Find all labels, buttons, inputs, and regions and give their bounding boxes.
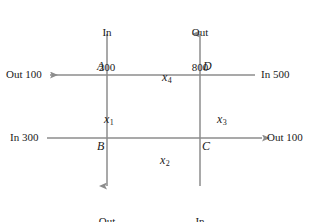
- flow-value-top-right: 800: [182, 62, 218, 74]
- flow-lines-svg: [0, 0, 312, 222]
- flow-label-top-left: In 200: [89, 3, 125, 98]
- variable-symbol-x3: x: [217, 112, 222, 126]
- variable-symbol-x4: x: [162, 70, 167, 84]
- flow-value-top-left: 200: [89, 62, 125, 74]
- variable-subscript-x1: 1: [110, 118, 114, 127]
- network-flow-diagram: In 200 Out 800 Out 100 In 500 In 300 Out…: [0, 0, 312, 222]
- flow-label-bottom-right: In 200: [182, 192, 218, 222]
- flow-label-right-lower: Out 100: [267, 132, 303, 144]
- flow-label-right-upper: In 500: [261, 69, 289, 81]
- node-label-a: A: [97, 60, 104, 73]
- variable-symbol-x2: x: [160, 153, 165, 167]
- flow-label-top-right: Out 800: [182, 3, 218, 98]
- variable-symbol-x1: x: [104, 112, 109, 126]
- flow-label-left-upper: Out 100: [6, 69, 42, 81]
- flow-direction-top-right: Out: [182, 27, 218, 39]
- node-label-b: B: [97, 140, 104, 153]
- flow-direction-top-left: In: [89, 27, 125, 39]
- node-label-d: D: [203, 60, 212, 73]
- variable-subscript-x4: 4: [168, 76, 172, 85]
- flow-direction-bottom-left: Out: [89, 216, 125, 222]
- variable-subscript-x3: 3: [223, 118, 227, 127]
- variable-subscript-x2: 2: [166, 159, 170, 168]
- variable-label-x3: x3: [205, 100, 226, 139]
- variable-label-x1: x1: [92, 100, 113, 139]
- variable-label-x4: x4: [150, 58, 171, 97]
- flow-direction-bottom-right: In: [182, 216, 218, 222]
- variable-label-x2: x2: [148, 141, 169, 180]
- node-label-c: C: [202, 140, 210, 153]
- flow-label-left-lower: In 300: [10, 132, 38, 144]
- flow-label-bottom-left: Out 200: [89, 192, 125, 222]
